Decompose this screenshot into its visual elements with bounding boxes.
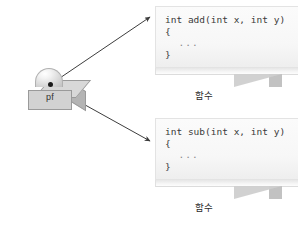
callout-fold-strip xyxy=(155,68,298,75)
sub-code-panel: int sub(int x, int y) { ... } xyxy=(155,118,298,180)
callout-fold-tail xyxy=(234,186,282,199)
code-line: ... xyxy=(165,149,296,161)
add-callout-caption: 함수 xyxy=(195,88,213,102)
code-line: int sub(int x, int y) xyxy=(165,126,296,138)
pointer-origin-dot xyxy=(48,82,53,87)
code-line: int add(int x, int y) xyxy=(165,14,296,26)
sub-callout-caption: 함수 xyxy=(195,200,213,214)
code-line: { xyxy=(165,138,296,150)
pointer-variable-label: pf xyxy=(28,92,72,102)
code-line: } xyxy=(165,49,296,61)
sub-function-callout[interactable]: int sub(int x, int y) { ... } 함수 xyxy=(155,118,298,187)
code-line: } xyxy=(165,161,296,173)
code-line: ... xyxy=(165,37,296,49)
add-function-callout[interactable]: int add(int x, int y) { ... } 함수 xyxy=(155,6,298,75)
code-line: { xyxy=(165,26,296,38)
pointer-variable-pf[interactable]: pf xyxy=(28,68,90,118)
add-code-panel: int add(int x, int y) { ... } xyxy=(155,6,298,68)
callout-fold-tail xyxy=(234,74,282,87)
callout-fold-strip xyxy=(155,180,298,187)
diagram-canvas: pf int add(int x, int y) { ... } 함수 int … xyxy=(0,0,298,243)
